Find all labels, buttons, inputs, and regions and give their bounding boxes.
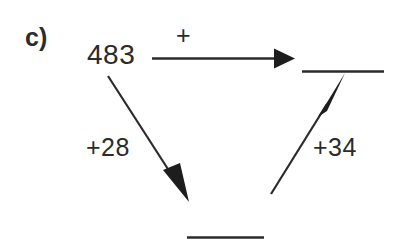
- operation-label-left: +28: [86, 135, 130, 160]
- operation-label-right: +34: [313, 135, 357, 160]
- start-number: 483: [87, 41, 135, 69]
- part-label: c): [25, 25, 47, 50]
- arrow-right-icon: [152, 49, 295, 69]
- number-chain-svg: [0, 0, 394, 248]
- worksheet-diagram: c) 483 + +28 +34: [0, 0, 394, 248]
- operation-label-top: +: [176, 23, 191, 48]
